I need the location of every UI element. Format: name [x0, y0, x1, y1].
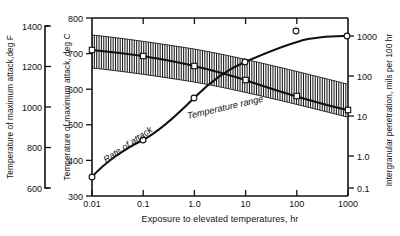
left-inner-tick-label-300: 300	[68, 192, 83, 202]
x-tick-label-0: 0.01	[83, 199, 101, 209]
right-axis-title: Intergranular penetration, mils per 100 …	[385, 34, 394, 187]
right-tick-label-0.1: 0.1	[357, 184, 370, 194]
right-tick-label-100: 100	[357, 72, 372, 82]
left-outer-axis-title: Temperature of maximum attack,deg F	[6, 35, 15, 179]
x-tick-label-3: 10	[241, 199, 251, 209]
right-tick-label-1000: 1000	[357, 32, 377, 42]
right-tick-label-1: 1.0	[357, 152, 370, 162]
left-outer-tick-label-600: 600	[27, 184, 42, 194]
left-outer-tick-label-1400: 1400	[22, 22, 42, 32]
right-tick-label-10: 10	[357, 112, 367, 122]
left-inner-tick-label-800: 800	[68, 14, 83, 24]
chart-figure: 0.01 0.1 1.0 10 100 1000 Exposure to ele…	[0, 0, 400, 236]
left-outer-tick-label-1000: 1000	[22, 103, 42, 113]
x-axis-title: Exposure to elevated temperatures, hr	[142, 214, 299, 224]
left-outer-tick-label-800: 800	[27, 143, 42, 153]
x-tick-label-1: 0.1	[137, 199, 150, 209]
left-inner-axis-title: Temperature of maximum attack, deg C	[63, 34, 72, 181]
left-outer-tick-label-1200: 1200	[22, 62, 42, 72]
x-tick-label-5: 1000	[338, 199, 358, 209]
x-tick-label-2: 1.0	[188, 199, 201, 209]
x-tick-label-4: 100	[289, 199, 304, 209]
